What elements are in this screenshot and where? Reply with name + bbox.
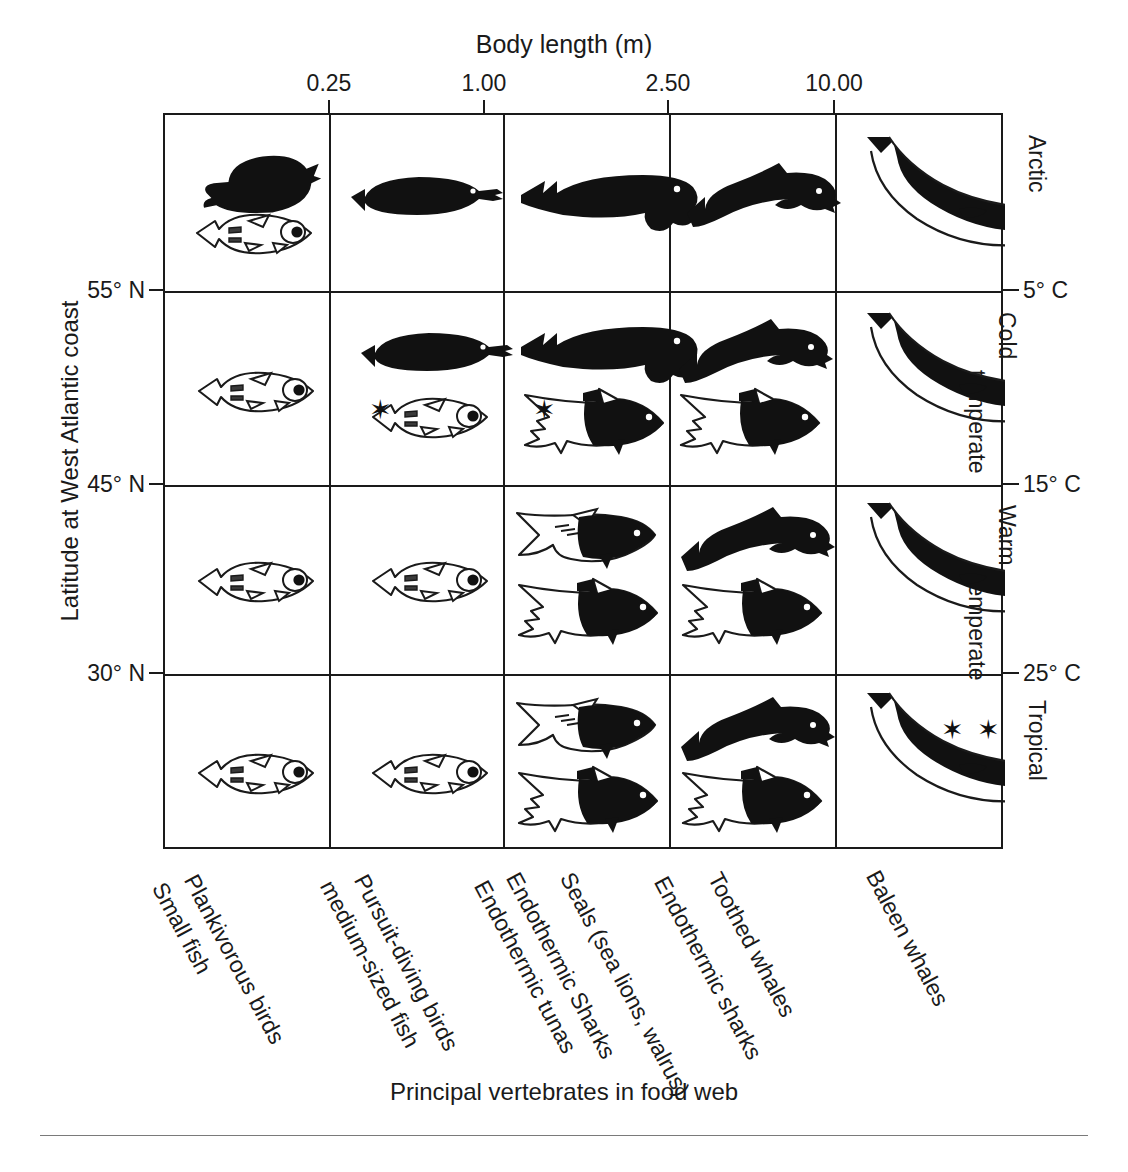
footer-divider (40, 1135, 1088, 1136)
cell-tropical-col4-icons (681, 697, 835, 833)
right-tick-mark-5c (1003, 289, 1019, 291)
y-tick-label-55n: 55° N (25, 277, 145, 304)
cell-arctic-col1-icons (197, 156, 321, 253)
x-tick-label-3: 2.50 (646, 70, 691, 97)
x-tick-mark-3 (667, 100, 669, 113)
cell-cold-temperate-col5-icons (867, 313, 1005, 421)
x-axis-caption: Principal vertebrates in food web (0, 1078, 1128, 1106)
right-tick-label-25c: 25° C (1023, 660, 1081, 687)
endothermy-star-cold-col3: ✶ (369, 397, 392, 424)
x-tick-label-1: 0.25 (307, 70, 352, 97)
x-tick-label-2: 1.00 (462, 70, 507, 97)
right-tick-label-15c: 15° C (1023, 471, 1081, 498)
zone-label-tropical: Tropical (1023, 700, 1050, 781)
cell-tropical-col3-icons (517, 699, 657, 833)
cell-cold-temperate-col4-icons (679, 319, 833, 455)
y-axis-title: Latitude at West Atlantic coast (56, 251, 84, 671)
zone-label-arctic: Arctic (1023, 135, 1050, 193)
endothermy-star-tropical-baleen-2: ✶ (977, 717, 1000, 744)
cell-warm-temperate-col3-icons (517, 509, 657, 645)
endothermy-star-cold-col4: ✶ (533, 397, 556, 424)
chart-grid: ✶ ✶ ✶ ✶ (163, 113, 1003, 849)
x-axis-title: Body length (m) (0, 30, 1128, 59)
x-tick-label-4: 10.00 (805, 70, 863, 97)
cell-warm-temperate-col4-icons (681, 507, 835, 645)
cell-arctic-col5-icons (867, 137, 1005, 245)
x-tick-mark-2 (483, 100, 485, 113)
cell-cold-temperate-col3-icons (521, 327, 698, 455)
endothermy-star-tropical-baleen-1: ✶ (941, 717, 964, 744)
cell-tropical-col2-icons (373, 755, 487, 793)
right-tick-label-5c: 5° C (1023, 277, 1068, 304)
y-tick-label-45n: 45° N (25, 471, 145, 498)
cell-cold-temperate-col1-icons (199, 373, 313, 411)
x-tick-mark-1 (328, 100, 330, 113)
cell-arctic-col2-icons (351, 177, 503, 215)
cell-warm-temperate-col1-icons (199, 563, 313, 601)
y-tick-label-30n: 30° N (25, 660, 145, 687)
organism-icon-layer (165, 115, 1005, 851)
right-tick-mark-15c (1003, 483, 1019, 485)
cell-arctic-col4-icons (687, 163, 841, 227)
cell-tropical-col1-icons (199, 755, 313, 793)
cell-warm-temperate-col5-icons (867, 503, 1005, 611)
cell-arctic-col3-icons (521, 175, 698, 231)
cell-tropical-col5-icons (867, 693, 1005, 801)
x-tick-mark-4 (833, 100, 835, 113)
cell-warm-temperate-col2-icons (373, 563, 487, 601)
column-label-baleen-whales: Baleen whales (860, 866, 954, 1011)
